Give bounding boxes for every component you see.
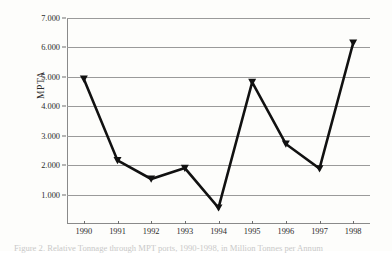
data-point-marker [349,40,357,47]
y-axis-tick-label: 7.000 [0,14,60,23]
x-axis-tick-mark [151,221,152,224]
data-point-marker [316,165,324,172]
x-axis-tick-labels: 199019911992199319941995199619971998 [67,224,370,244]
y-axis-tick-mark [62,165,66,166]
series-polyline [84,43,353,208]
y-axis-tick-mark [62,135,66,136]
x-axis-tick-mark [118,221,119,224]
figure-caption: Figure 2. Relative Tonnage through MPT p… [14,243,386,253]
y-axis-tick-mark [62,18,66,19]
x-axis-tick-mark [353,221,354,224]
y-axis-tick-label: 6.000 [0,43,60,52]
y-axis-tick-label: 2.000 [0,161,60,170]
data-point-marker [215,204,223,211]
x-axis-tick-label: 1998 [333,227,373,236]
plot-area [67,18,370,224]
x-axis-tick-mark [84,221,85,224]
x-axis-tick-mark [320,221,321,224]
x-axis-tick-mark [286,221,287,224]
x-axis-tick-mark [219,221,220,224]
data-point-marker [80,76,88,83]
y-axis-tick-label: 3.000 [0,131,60,140]
y-axis-tick-mark [62,47,66,48]
y-axis-tick-mark [62,106,66,107]
x-axis-tick-mark [252,221,253,224]
x-axis-tick-mark [185,221,186,224]
data-series-line [67,18,370,224]
y-axis-tick-labels: 1.0002.0003.0004.0005.0006.0007.000 [0,0,66,251]
y-axis-tick-label: 5.000 [0,72,60,81]
y-axis-tick-mark [62,76,66,77]
y-axis-tick-label: 4.000 [0,102,60,111]
y-axis-tick-mark [62,194,66,195]
y-axis-tick-label: 1.000 [0,190,60,199]
